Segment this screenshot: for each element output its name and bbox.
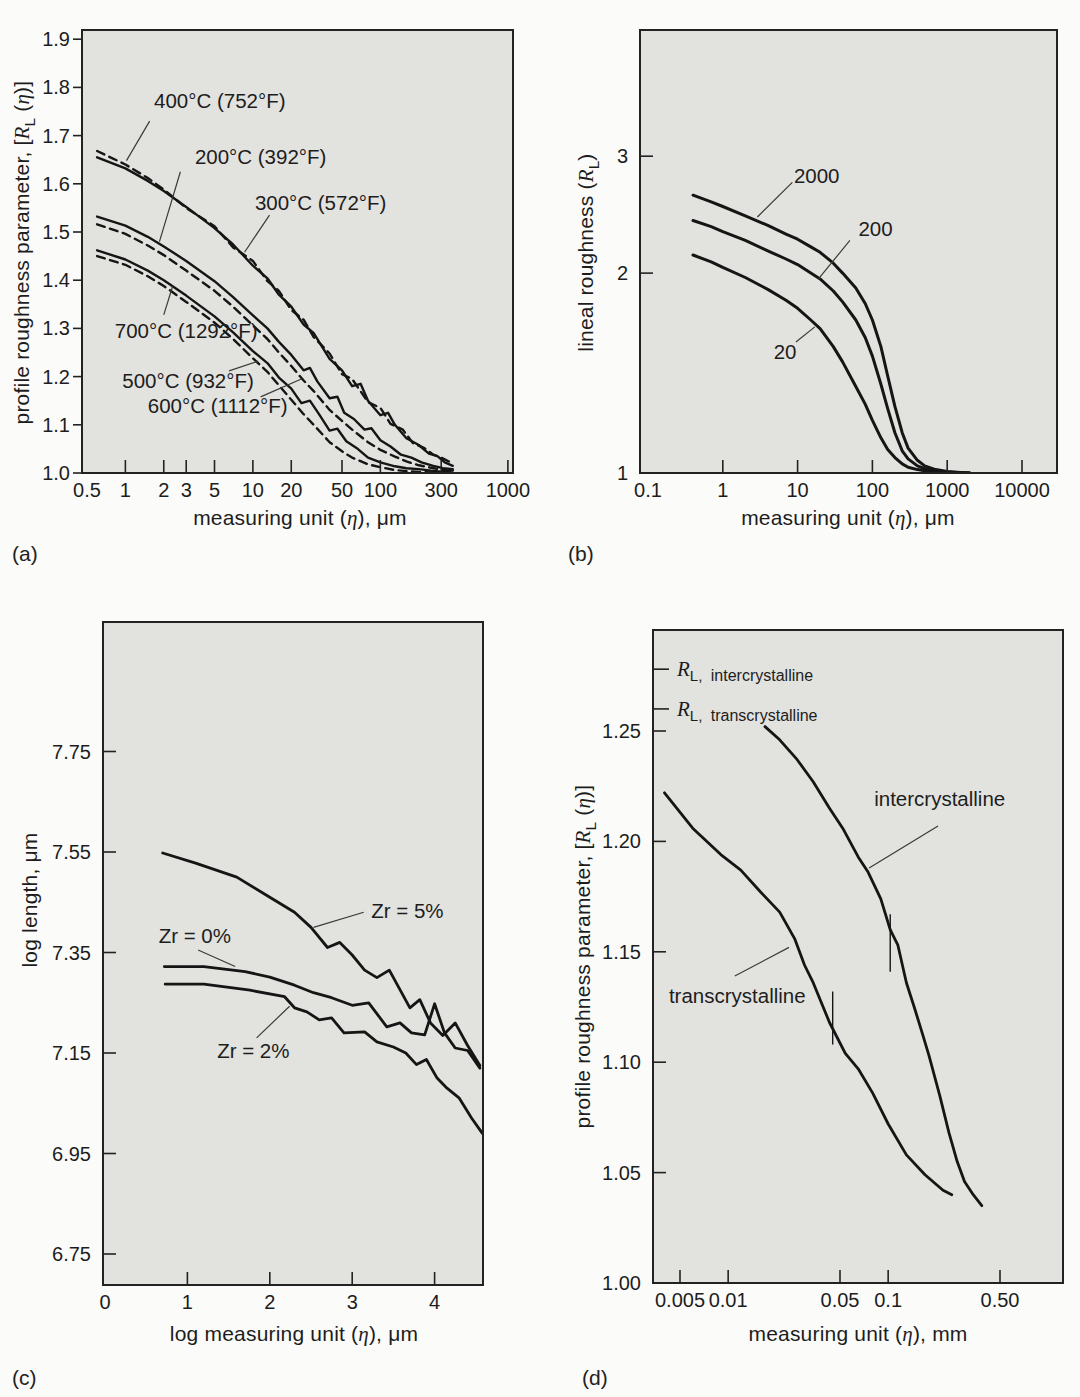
y-tick-label: 1.1 [42,414,70,436]
curve-label: 200°C (392°F) [195,145,326,168]
x-tick-label: 1 [717,479,728,501]
x-tick-label: 300 [425,479,458,501]
panel-a: 400°C (752°F)200°C (392°F)300°C (572°F)7… [0,0,540,580]
panel-d-x-axis-title: measuring unit (η), mm [658,1322,1058,1347]
y-tick-label: 1.3 [42,317,70,339]
y-tick-label: 1.5 [42,221,70,243]
curve-label: 400°C (752°F) [154,89,285,112]
chart-d: intercrystallinetranscrystalline0.0050.0… [540,600,1080,1397]
y-tick-label: 1 [617,462,628,484]
x-tick-label: 100 [856,479,889,501]
panel-b-letter: (b) [568,542,594,566]
panel-a-letter: (a) [12,542,38,566]
panel-c: Zr = 5%Zr = 0%Zr = 2%012346.756.957.157.… [0,600,540,1397]
curve-label: transcrystalline [669,984,806,1007]
y-tick-label: 7.15 [52,1042,91,1064]
chart-a: 400°C (752°F)200°C (392°F)300°C (572°F)7… [0,0,540,580]
curve-label: 200 [858,217,892,240]
y-tick-label: 1.15 [602,941,641,963]
y-tick-label: 3 [617,145,628,167]
panel-b-y-axis-title: lineal roughness (RL) [574,93,601,413]
x-tick-label: 3 [347,1291,358,1313]
x-tick-label: 1000 [486,479,531,501]
panel-c-y-axis-title: log length, μm [18,790,42,1010]
curve-label: 600°C (1112°F) [148,394,288,417]
x-tick-label: 50 [331,479,353,501]
x-tick-label: 3 [181,479,192,501]
plot-background [82,30,513,473]
panel-b: 2000200200.1110100100010000123 measuring… [540,0,1080,580]
x-tick-label: 100 [364,479,397,501]
y-tick-label: 1.10 [602,1051,641,1073]
panel-a-y-axis-title: profile roughness parameter, [RL (η)] [10,13,37,493]
y-tick-label: 1.25 [602,720,641,742]
x-tick-label: 20 [280,479,302,501]
curve-label: 300°C (572°F) [255,191,386,214]
panel-c-letter: (c) [12,1366,37,1390]
chart-b: 2000200200.1110100100010000123 [540,0,1080,580]
y-tick-label: 1.9 [42,28,70,50]
panel-c-x-axis-title: log measuring unit (η), μm [94,1322,494,1347]
x-tick-label: 2 [264,1291,275,1313]
x-tick-label: 0.1 [634,479,662,501]
x-tick-label: 0.05 [821,1289,860,1311]
curve-label: 500°C (932°F) [122,369,253,392]
curve-label: Zr = 5% [371,899,443,922]
y-tick-label: 6.75 [52,1243,91,1265]
curve-label: 20 [774,340,797,363]
x-tick-label: 4 [429,1291,440,1313]
curve-label: Zr = 2% [217,1039,289,1062]
panel-d-letter: (d) [582,1366,608,1390]
x-tick-label: 1 [120,479,131,501]
panel-b-x-axis-title: measuring unit (η), μm [648,506,1048,531]
x-tick-label: 10 [242,479,264,501]
x-tick-label: 1 [182,1291,193,1313]
curve-label: Zr = 0% [159,924,231,947]
panel-d: intercrystallinetranscrystalline0.0050.0… [540,600,1080,1397]
x-tick-label: 0.5 [73,479,101,501]
y-tick-label: 1.8 [42,76,70,98]
y-tick-label: 1.05 [602,1162,641,1184]
figure-page: 400°C (752°F)200°C (392°F)300°C (572°F)7… [0,0,1080,1397]
x-tick-label: 10000 [994,479,1050,501]
y-tick-label: 7.75 [52,741,91,763]
x-tick-label: 1000 [925,479,970,501]
x-tick-label: 0 [99,1291,110,1313]
x-tick-label: 10 [786,479,808,501]
y-tick-label: 6.95 [52,1143,91,1165]
plot-background [103,622,483,1285]
x-tick-label: 0.1 [874,1289,902,1311]
y-tick-label: 1.6 [42,173,70,195]
y-tick-label: 1.4 [42,269,70,291]
panel-d-y-axis-title: profile roughness parameter, [RL (η)] [571,717,598,1197]
y-tick-label: 1.20 [602,830,641,852]
curve-label: 700°C (1292°F) [115,319,258,342]
x-tick-label: 0.01 [709,1289,748,1311]
y-tick-label: 7.35 [52,942,91,964]
x-tick-label: 2 [158,479,169,501]
y-tick-label: 1.2 [42,366,70,388]
x-tick-label: 0.50 [981,1289,1020,1311]
x-tick-label: 0.005 [655,1289,705,1311]
y-tick-label: 1.0 [42,462,70,484]
x-tick-label: 5 [209,479,220,501]
curve-label: 2000 [794,164,840,187]
curve-label: intercrystalline [874,787,1005,810]
plot-background [653,630,1063,1283]
chart-c: Zr = 5%Zr = 0%Zr = 2%012346.756.957.157.… [0,600,540,1397]
y-tick-label: 7.55 [52,841,91,863]
y-tick-label: 1.00 [602,1272,641,1294]
y-tick-label: 1.7 [42,125,70,147]
y-tick-label: 2 [617,262,628,284]
panel-a-x-axis-title: measuring unit (η), μm [100,506,500,531]
plot-background [640,30,1057,473]
